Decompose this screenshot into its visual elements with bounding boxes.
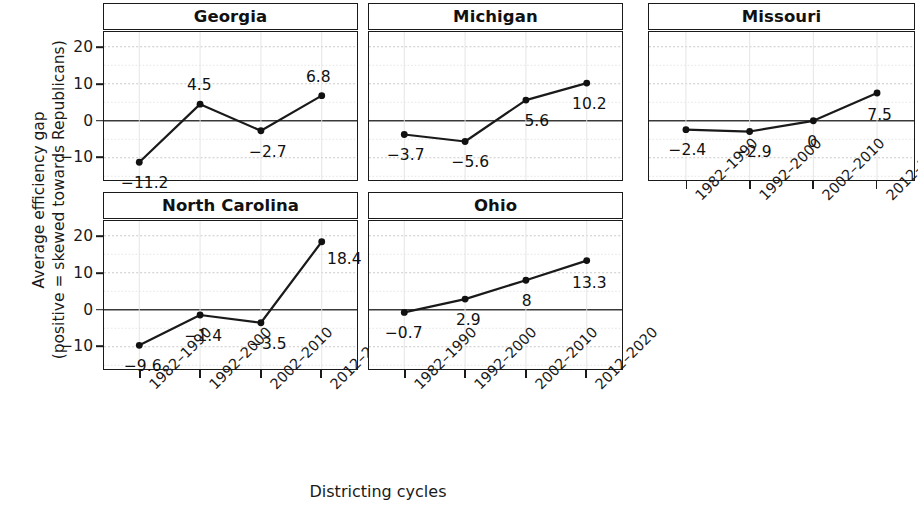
x-axis-tick-label: 1982–1990: [146, 381, 157, 392]
y-axis-tick-label: 20: [73, 38, 93, 56]
x-axis-tick-mark: [139, 370, 141, 378]
x-axis-tick-label: 1982–1990: [692, 192, 703, 203]
data-point: [874, 90, 881, 97]
data-value-label: 7.5: [867, 106, 892, 124]
y-axis-tick-mark: [96, 46, 103, 48]
data-value-label: −5.6: [451, 153, 489, 171]
plot-area: −11.24.5−2.76.8: [103, 31, 358, 181]
data-point: [583, 257, 590, 264]
data-line: [404, 261, 586, 313]
x-axis: 1982–19901992–20002002–20102012–2020: [368, 370, 623, 480]
data-point: [401, 309, 408, 316]
data-value-label: −3.7: [387, 146, 425, 164]
y-axis-tick-mark: [96, 346, 103, 348]
x-axis-tick-label: 1992–2000: [206, 381, 217, 392]
x-axis-tick-mark: [525, 370, 527, 378]
data-value-label: 4.5: [187, 76, 212, 94]
panel-title-north-carolina: North Carolina: [103, 192, 358, 219]
y-axis-tick-mark: [96, 272, 103, 274]
facet-panel-missouri: Missouri−2.4−2.907.51982–19901992–200020…: [648, 3, 915, 181]
facet-panel-north-carolina: North Carolina−9.6−1.4−3.518.420100−1019…: [103, 192, 358, 370]
data-point: [136, 342, 143, 349]
data-value-label: 10.2: [572, 95, 607, 113]
data-line: [139, 242, 321, 346]
data-point: [810, 117, 817, 124]
x-axis-tick-label: 2002–2010: [267, 381, 278, 392]
x-axis: 1982–19901992–20002002–20102012–2020: [648, 181, 915, 291]
data-point: [401, 131, 408, 138]
data-value-label: −0.7: [385, 324, 423, 342]
x-axis-tick-mark: [585, 370, 587, 378]
y-axis-tick-label: −10: [60, 148, 93, 166]
y-axis-tick-label: 10: [73, 264, 93, 282]
data-line: [686, 93, 877, 131]
data-point: [583, 80, 590, 87]
y-axis-tick-label: −10: [60, 337, 93, 355]
x-axis-tick-label: 1992–2000: [471, 381, 482, 392]
y-axis-tick-label: 0: [83, 301, 93, 319]
x-axis-tick-mark: [260, 370, 262, 378]
data-value-label: −11.2: [121, 174, 169, 192]
x-axis-tick-mark: [404, 370, 406, 378]
data-point: [746, 128, 753, 135]
x-axis-title: Districting cycles: [103, 482, 653, 501]
y-axis-tick-label: 0: [83, 112, 93, 130]
x-axis-tick-label: 2002–2010: [532, 381, 543, 392]
data-line: [139, 96, 321, 163]
x-axis-tick-mark: [749, 181, 751, 189]
data-point: [318, 92, 325, 99]
x-axis-tick-label: 1982–1990: [411, 381, 422, 392]
data-point: [197, 101, 204, 108]
x-axis: 1982–19901992–20002002–20102012–2020: [103, 370, 358, 480]
x-axis-tick-mark: [464, 370, 466, 378]
panel-title-ohio: Ohio: [368, 192, 623, 219]
panel-title-missouri: Missouri: [648, 3, 915, 30]
x-axis-tick-label: 2012–2020: [327, 381, 338, 392]
facet-panel-ohio: Ohio−0.72.9813.31982–19901992–20002002–2…: [368, 192, 623, 370]
data-point: [197, 312, 204, 319]
plot-area: −3.7−5.65.610.2: [368, 31, 623, 181]
plot-canvas: [104, 32, 357, 180]
efficiency-gap-faceted-line-chart: Average efficiency gap (positive = skewe…: [0, 0, 918, 513]
x-axis-tick-mark: [320, 370, 322, 378]
data-point: [462, 138, 469, 145]
x-axis-tick-mark: [812, 181, 814, 189]
data-value-label: −2.4: [669, 141, 707, 159]
y-axis-tick-mark: [96, 235, 103, 237]
data-point: [522, 97, 529, 104]
data-point: [683, 126, 690, 133]
panel-title-michigan: Michigan: [368, 3, 623, 30]
panel-title-georgia: Georgia: [103, 3, 358, 30]
x-axis-tick-label: 2012–2020: [883, 192, 894, 203]
x-axis-tick-label: 1992–2000: [756, 192, 767, 203]
data-line: [404, 83, 586, 141]
data-point: [136, 159, 143, 166]
y-axis: 20100−10: [59, 33, 103, 180]
y-axis-tick-mark: [96, 157, 103, 159]
data-value-label: −2.7: [249, 143, 287, 161]
x-axis-tick-mark: [199, 370, 201, 378]
data-value-label: 8: [522, 292, 532, 310]
data-value-label: 18.4: [327, 250, 362, 268]
y-axis-tick-label: 10: [73, 75, 93, 93]
x-axis-tick-mark: [686, 181, 688, 189]
x-axis-tick-label: 2012–2020: [592, 381, 603, 392]
data-value-label: 13.3: [572, 274, 607, 292]
data-point: [522, 277, 529, 284]
y-axis-tick-mark: [96, 309, 103, 311]
y-axis-title-line1: Average efficiency gap: [30, 111, 48, 288]
x-axis-tick-label: 2002–2010: [819, 192, 830, 203]
data-point: [462, 296, 469, 303]
data-value-label: 6.8: [306, 68, 331, 86]
y-axis: 20100−10: [59, 222, 103, 369]
facet-panel-georgia: Georgia−11.24.5−2.76.820100−10: [103, 3, 358, 181]
data-point: [257, 127, 264, 134]
y-axis-tick-label: 20: [73, 227, 93, 245]
y-axis-tick-mark: [96, 120, 103, 122]
x-axis-tick-mark: [876, 181, 878, 189]
data-point: [318, 238, 325, 245]
y-axis-tick-mark: [96, 83, 103, 85]
facet-panel-michigan: Michigan−3.7−5.65.610.2: [368, 3, 623, 181]
data-value-label: 5.6: [524, 112, 549, 130]
